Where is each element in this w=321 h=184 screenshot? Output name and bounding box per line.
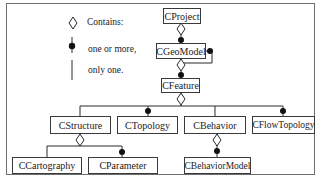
node-cproject: CProject [163,8,201,24]
legend-one-or-more-label: one or more, [88,44,136,54]
legend-contains-label: Contains: [87,17,123,27]
node-cbehavior: CBehavior [184,116,246,134]
diamond-icon [69,17,77,29]
node-cbehaviormodel: CBehaviorModel [184,157,251,174]
node-ctopology: CTopology [117,116,178,134]
node-cflowtopology: CFlowTopology [252,116,315,134]
node-ccartography: CCartography [12,157,82,174]
node-cstructure: CStructure [50,116,111,134]
node-cfeature: CFeature [161,78,200,93]
node-cparameter: CParameter [88,157,158,174]
node-cgeomodel: CGeoModel [156,43,206,59]
filled-circle-icon [69,43,75,49]
legend-only-one-label: only one. [88,65,123,75]
